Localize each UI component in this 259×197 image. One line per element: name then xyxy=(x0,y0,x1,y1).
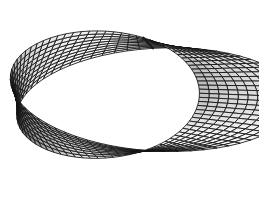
mesh-quad xyxy=(199,85,209,89)
mesh-quad xyxy=(194,73,205,77)
mesh-quad xyxy=(217,85,228,90)
mesh-quad xyxy=(150,151,165,152)
mobius-strip-wireframe xyxy=(0,0,259,197)
mesh-quad xyxy=(227,85,238,90)
mesh-quad xyxy=(196,77,207,81)
mobius-figure xyxy=(0,0,259,197)
mesh-quad xyxy=(247,90,257,95)
mesh-quad xyxy=(208,85,218,89)
mesh-quad xyxy=(197,81,207,85)
